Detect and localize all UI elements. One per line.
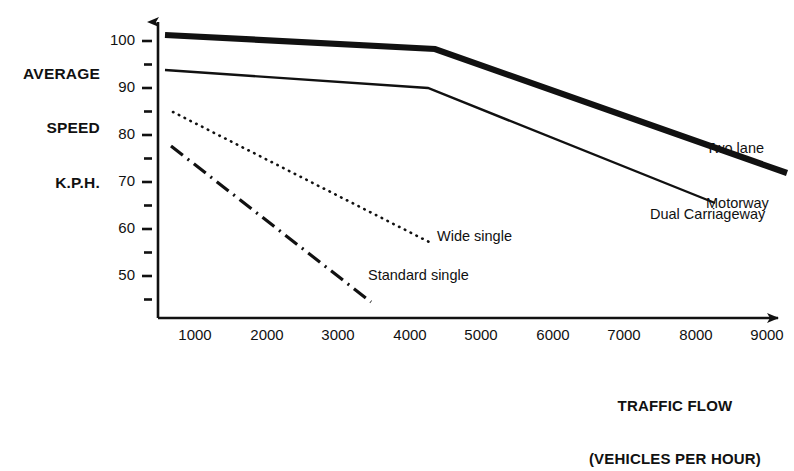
x-tick-label-9000: 9000 (737, 326, 794, 344)
y-axis-title-line-2: SPEED (4, 119, 100, 137)
y-axis-title-line-3: K.P.H. (4, 174, 100, 192)
series-label-standard-single: Standard single (368, 266, 469, 284)
series-dual-carriageway (165, 70, 715, 203)
y-axis-title-line-1: AVERAGE (4, 65, 100, 83)
y-tick-label-100: 100 (93, 31, 135, 49)
series-label-two-lane-motorway: Two lane Motorway (706, 103, 769, 248)
series-standard-single (171, 146, 371, 302)
series-label-motorway-line-1: Two lane (706, 139, 769, 157)
x-tick-label-3000: 3000 (308, 326, 368, 344)
y-axis-title: AVERAGE SPEED K.P.H. (4, 28, 100, 229)
x-axis-title-line-1: TRAFFIC FLOW (560, 397, 790, 415)
x-axis-title-line-2: (VEHICLES PER HOUR) (560, 450, 790, 468)
x-tick-label-2000: 2000 (237, 326, 297, 344)
y-tick-label-80: 80 (93, 125, 135, 143)
y-tick-label-90: 90 (93, 78, 135, 96)
x-tick-label-6000: 6000 (523, 326, 583, 344)
y-tick-label-70: 70 (93, 172, 135, 190)
x-tick-label-8000: 8000 (666, 326, 726, 344)
y-tick-label-60: 60 (93, 219, 135, 237)
x-axis-title: TRAFFIC FLOW (VEHICLES PER HOUR) (560, 362, 790, 471)
x-tick-label-7000: 7000 (594, 326, 654, 344)
x-tick-label-1000: 1000 (165, 326, 225, 344)
series-two-lane-motorway (165, 35, 787, 173)
x-tick-label-4000: 4000 (380, 326, 440, 344)
y-tick-label-50: 50 (93, 266, 135, 284)
x-tick-label-5000: 5000 (451, 326, 511, 344)
series-label-dual-carriageway: Dual Carriageway (650, 205, 765, 223)
series-label-wide-single: Wide single (437, 227, 512, 245)
y-axis (142, 22, 158, 318)
